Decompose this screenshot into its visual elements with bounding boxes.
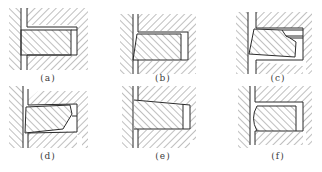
piston-lower-land [138, 130, 190, 148]
panel-label-b: (b) [148, 73, 178, 83]
cylinder-wall [9, 8, 21, 70]
panel-b [120, 14, 196, 74]
cylinder-wall [9, 86, 23, 148]
piston-lower-land [27, 56, 82, 70]
panel-a [9, 8, 88, 70]
ring-section [25, 105, 72, 133]
cylinder-wall [122, 86, 133, 148]
panel-e [122, 86, 196, 148]
piston-ring-profiles-diagram [0, 0, 322, 172]
panel-f [238, 86, 312, 148]
ring-section [134, 100, 183, 129]
cylinder-wall [120, 14, 133, 74]
cylinder-wall [236, 12, 248, 74]
ring-section [133, 34, 181, 60]
piston-lower-land [255, 132, 303, 145]
ring-section [254, 106, 297, 131]
panel-label-d: (d) [33, 151, 63, 161]
cylinder-wall [238, 86, 250, 148]
ring-section [249, 29, 296, 57]
piston-lower-land [28, 131, 77, 148]
ring-section [21, 30, 71, 54]
panel-label-c: (c) [263, 73, 293, 83]
panel-label-f: (f) [263, 151, 293, 161]
panel-d [9, 86, 88, 148]
panel-label-e: (e) [148, 151, 178, 161]
panel-label-a: (a) [33, 73, 63, 83]
panel-c [236, 12, 312, 74]
